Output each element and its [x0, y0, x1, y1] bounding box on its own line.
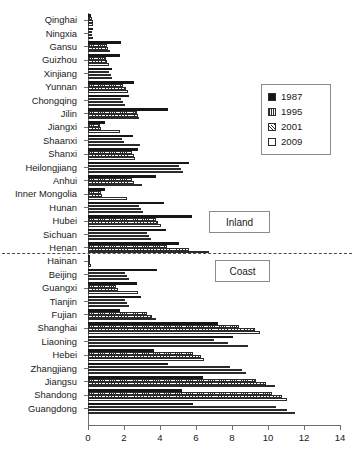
- y-tick-mark: [84, 408, 88, 409]
- bar-guizhou-2009: [88, 63, 109, 66]
- x-tick-label: 14: [329, 432, 351, 443]
- y-tick-mark: [84, 60, 88, 61]
- bar-group: [88, 40, 340, 53]
- y-tick-label: Xinjiang: [44, 69, 77, 78]
- bar-shanxi-2009: [88, 157, 135, 160]
- bar-group: [88, 26, 340, 39]
- y-tick-mark: [84, 341, 88, 342]
- y-tick-mark: [84, 381, 88, 382]
- bar-gansu-2009: [88, 50, 110, 53]
- y-tick-mark: [84, 368, 88, 369]
- y-tick-label: Beijing: [49, 270, 77, 279]
- legend-label: 1995: [281, 107, 302, 117]
- bar-jiangxi-2009: [88, 130, 120, 133]
- x-tick-label: 0: [77, 432, 99, 443]
- y-tick-label: Hainan: [47, 256, 77, 265]
- y-tick-label: Heilongjiang: [25, 163, 77, 172]
- y-tick-label: Shandong: [34, 390, 77, 399]
- x-tick-label: 12: [293, 432, 315, 443]
- y-tick-mark: [84, 140, 88, 141]
- bar-shaanxi-2009: [88, 144, 140, 147]
- y-tick-label: Shanxi: [48, 149, 77, 158]
- y-tick-mark: [84, 221, 88, 222]
- y-tick-label: Qinghai: [45, 15, 77, 24]
- y-axis-labels: QinghaiNingxiaGansuGuizhouXinjiangYunnan…: [0, 13, 85, 423]
- y-tick-label: Hebei: [53, 350, 78, 359]
- bar-group: [88, 348, 340, 361]
- y-tick-label: Jiangsu: [45, 377, 77, 386]
- y-tick-mark: [84, 395, 88, 396]
- y-tick-label: Jiangxi: [48, 122, 77, 131]
- y-tick-mark: [84, 46, 88, 47]
- y-tick-mark: [84, 194, 88, 195]
- legend-item-2009: 2009: [268, 134, 325, 149]
- bar-jilin-2009: [88, 117, 139, 120]
- legend-label: 1987: [281, 92, 302, 102]
- bar-chart: QinghaiNingxiaGansuGuizhouXinjiangYunnan…: [0, 0, 360, 463]
- x-tick-mark: [340, 425, 341, 430]
- y-tick-mark: [84, 167, 88, 168]
- y-tick-label: Fujian: [51, 310, 77, 319]
- y-tick-label: Hunan: [49, 203, 77, 212]
- y-tick-label: Liaoning: [42, 337, 77, 346]
- legend-swatch-1987: [268, 93, 276, 101]
- x-tick-label: 6: [185, 432, 207, 443]
- bar-yunnan-2009: [88, 90, 128, 93]
- bar-jiangsu-2009: [88, 385, 275, 388]
- x-tick-mark: [196, 425, 197, 430]
- y-tick-mark: [84, 274, 88, 275]
- y-tick-label: Gansu: [49, 42, 77, 51]
- bar-group: [88, 268, 340, 281]
- bar-hainan-2009: [88, 264, 91, 267]
- bar-group: [88, 160, 340, 173]
- x-tick-mark: [232, 425, 233, 430]
- y-tick-label: Zhangjiang: [31, 364, 77, 373]
- bar-group: [88, 281, 340, 294]
- y-tick-mark: [84, 328, 88, 329]
- y-tick-mark: [84, 20, 88, 21]
- y-tick-mark: [84, 288, 88, 289]
- bar-ningxia-2009: [88, 37, 93, 40]
- region-label-inland: Inland: [209, 211, 270, 233]
- bar-beijing-2009: [88, 278, 129, 281]
- y-tick-mark: [84, 261, 88, 262]
- x-tick-label: 8: [221, 432, 243, 443]
- bar-hunan-2009: [88, 211, 143, 214]
- bar-group: [88, 294, 340, 307]
- y-tick-label: Sichuan: [43, 230, 77, 239]
- legend-item-1987: 1987: [268, 89, 325, 104]
- y-tick-mark: [84, 234, 88, 235]
- bar-heilongjiang-2009: [88, 171, 183, 174]
- bar-inner-mongolia-2009: [88, 197, 127, 200]
- bar-qinghai-2009: [88, 23, 93, 26]
- bar-guangxi-2009: [88, 291, 138, 294]
- bar-liaoning-2009: [88, 345, 248, 348]
- legend-item-2001: 2001: [268, 119, 325, 134]
- x-tick-mark: [160, 425, 161, 430]
- y-tick-label: Anhui: [53, 176, 77, 185]
- y-tick-mark: [84, 100, 88, 101]
- bar-group: [88, 254, 340, 267]
- bar-sichuan-2009: [88, 238, 151, 241]
- bar-group: [88, 308, 340, 321]
- y-tick-label: Yunnan: [45, 82, 77, 91]
- bar-group: [88, 187, 340, 200]
- bar-chongqing-2009: [88, 104, 125, 107]
- bar-group: [88, 335, 340, 348]
- y-tick-label: Guizhou: [42, 55, 77, 64]
- legend: 1987199520012009: [261, 84, 331, 155]
- y-tick-label: Chongqing: [32, 96, 77, 105]
- legend-swatch-2001: [268, 123, 276, 131]
- y-tick-mark: [84, 207, 88, 208]
- y-tick-mark: [84, 113, 88, 114]
- y-tick-mark: [84, 87, 88, 88]
- y-tick-mark: [84, 314, 88, 315]
- legend-label: 2009: [281, 137, 302, 147]
- bar-hebei-2009: [88, 358, 204, 361]
- bar-group: [88, 53, 340, 66]
- bar-group: [88, 388, 340, 401]
- bar-group: [88, 402, 340, 415]
- y-tick-label: Shaanxi: [43, 136, 77, 145]
- bar-group: [88, 375, 340, 388]
- x-tick-mark: [268, 425, 269, 430]
